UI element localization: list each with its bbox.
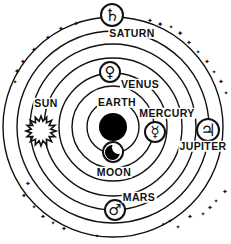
mars-label: MARS [122,192,157,203]
star-icon: ✦ [157,21,164,29]
star-icon: ✦ [223,90,228,96]
star-icon: ✦ [204,59,210,66]
saturn-symbol: ♄ [100,3,124,27]
star-icon: ✦ [195,49,200,55]
star-icon: ✦ [12,79,17,85]
star-icon: ✦ [218,79,224,86]
mercury-glyph-icon: ☿ [150,125,159,140]
jupiter-label: JUPITER [178,141,227,152]
star-icon: ✦ [213,198,218,204]
venus-symbol: ♀ [99,61,121,83]
moon-label: MOON [96,167,132,178]
mars-glyph-icon: ♂ [108,203,121,218]
star-icon: ✦ [147,18,153,25]
star-icon: ✦ [168,24,173,30]
star-icon: ✦ [20,59,26,66]
earth-disk [99,113,127,141]
star-icon: ✦ [25,181,31,188]
star-icon: ✦ [31,47,37,54]
star-icon: ✦ [161,222,165,227]
star-icon: ✦ [31,204,36,210]
saturn-label: SATURN [108,28,155,39]
star-icon: ✦ [187,214,193,221]
moon-symbol [102,141,124,163]
star-icon: ✦ [73,21,79,28]
star-icon: ✦ [94,233,99,239]
star-icon: ✦ [40,214,46,221]
earth-label: EARTH [97,97,137,108]
star-icon: ✦ [207,205,213,212]
jupiter-symbol: ♃ [196,118,220,142]
star-icon: ✦ [175,224,180,230]
star-icon: ✦ [45,35,51,42]
star-icon: ✦ [211,69,216,75]
venus-label: VENUS [120,79,160,90]
star-icon: ✦ [186,40,192,47]
star-icon: ✦ [21,193,27,200]
geocentric-diagram: ✦✦✦✦✦✦✦✦✦✦✦✦✦✦✦✦✦✦✦✦✦✦✦✦✦✦✦✦✦✦✦✦EARTHMOO… [0,0,231,244]
mercury-symbol: ☿ [144,121,166,143]
saturn-glyph-icon: ♄ [104,7,119,24]
venus-glyph-icon: ♀ [105,65,116,80]
jupiter-glyph-icon: ♃ [200,122,215,139]
star-icon: ✦ [177,30,184,38]
sun-label: SUN [33,98,58,109]
star-icon: ✦ [14,68,21,76]
mercury-label: MERCURY [138,108,196,119]
sun-symbol [23,113,59,149]
star-icon: ✦ [58,26,64,33]
star-icon: ✦ [222,189,228,196]
star-icon: ✦ [167,218,172,224]
star-icon: ✦ [200,211,205,217]
star-icon: ✦ [61,226,67,233]
star-icon: ✦ [50,220,55,226]
